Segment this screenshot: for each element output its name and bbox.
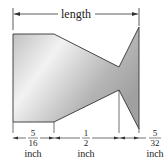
shape-diagram: length 5 16 inch 1 2 inch 5 32 inch (0, 0, 167, 166)
svg-text:inch: inch (146, 148, 163, 159)
svg-text:2: 2 (84, 138, 89, 148)
diagram: length 5 16 inch 1 2 inch 5 32 inch (0, 0, 167, 166)
svg-text:inch: inch (77, 148, 94, 159)
svg-text:5: 5 (31, 128, 36, 138)
svg-text:5: 5 (153, 128, 158, 138)
arrow-right-icon (132, 12, 138, 16)
svg-text:1: 1 (84, 128, 89, 138)
arrow-left-icon (14, 12, 20, 16)
svg-text:16: 16 (29, 138, 39, 148)
svg-text:32: 32 (151, 138, 160, 148)
part-profile (13, 27, 139, 129)
svg-text:inch: inch (24, 148, 41, 159)
length-label: length (61, 7, 91, 21)
